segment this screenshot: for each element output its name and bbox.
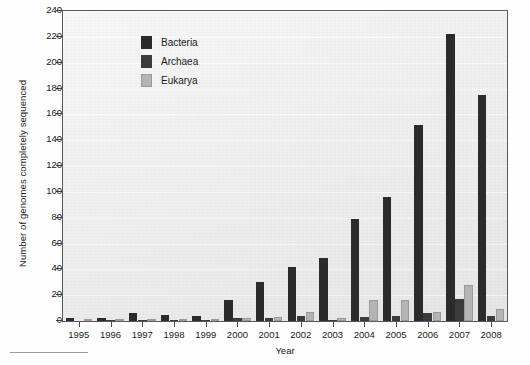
y-axis-tick-label: 180 xyxy=(32,83,62,92)
bar-bacteria-1997 xyxy=(129,313,138,321)
y-axis-tick-label: 100 xyxy=(32,186,62,195)
bar-archaea-1999 xyxy=(201,320,210,322)
x-axis-tick xyxy=(301,322,302,327)
y-axis-tick-label: 140 xyxy=(32,134,62,143)
legend-item: Archaea xyxy=(141,52,198,71)
y-axis: 020406080100120140160180200220240 xyxy=(26,10,62,322)
bar-eukarya-2000 xyxy=(242,318,251,321)
x-axis-tick xyxy=(206,322,207,327)
x-axis-tick xyxy=(491,322,492,327)
x-axis-tick xyxy=(459,322,460,327)
bar-bacteria-2002 xyxy=(288,267,297,321)
legend-swatch-bacteria xyxy=(141,36,152,49)
x-axis-tick xyxy=(428,322,429,327)
bar-eukarya-1998 xyxy=(179,319,188,321)
bar-archaea-2001 xyxy=(265,318,274,321)
bar-bacteria-2000 xyxy=(224,300,233,321)
x-axis-tick xyxy=(79,322,80,327)
footer-rule xyxy=(10,352,88,353)
legend-item: Bacteria xyxy=(141,33,198,52)
y-axis-tick-label: 80 xyxy=(32,212,62,221)
y-axis-tick-label: 120 xyxy=(32,160,62,169)
x-axis-tick xyxy=(174,322,175,327)
bar-group xyxy=(319,11,346,321)
y-axis-tick-label: 0 xyxy=(32,315,62,324)
bar-bacteria-1999 xyxy=(192,316,201,321)
bar-bacteria-2007 xyxy=(446,34,455,321)
bar-archaea-1996 xyxy=(106,320,115,322)
bar-eukarya-2008 xyxy=(496,309,505,321)
bar-eukarya-2002 xyxy=(306,312,315,321)
bar-group xyxy=(383,11,410,321)
x-axis-tick xyxy=(269,322,270,327)
bar-archaea-2004 xyxy=(360,317,369,321)
bar-bacteria-2004 xyxy=(351,219,360,321)
bar-bacteria-2008 xyxy=(478,95,487,321)
bar-eukarya-1996 xyxy=(115,319,124,321)
bar-group xyxy=(256,11,283,321)
bar-eukarya-2005 xyxy=(401,300,410,321)
x-axis-tick xyxy=(364,322,365,327)
bar-bacteria-2003 xyxy=(319,258,328,321)
bar-bacteria-2001 xyxy=(256,282,265,321)
bar-archaea-2008 xyxy=(487,316,496,321)
bar-archaea-2002 xyxy=(297,316,306,321)
x-axis-tick xyxy=(237,322,238,327)
legend-label-eukarya: Eukarya xyxy=(161,75,198,86)
bar-bacteria-2006 xyxy=(414,125,423,321)
x-axis-title: Year xyxy=(62,345,508,356)
bar-eukarya-2004 xyxy=(369,300,378,321)
bar-archaea-1997 xyxy=(138,320,147,322)
bar-eukarya-2001 xyxy=(274,317,283,321)
bar-bacteria-1995 xyxy=(66,318,75,321)
y-axis-tick-label: 200 xyxy=(32,57,62,66)
bar-eukarya-2007 xyxy=(464,285,473,321)
bar-eukarya-1997 xyxy=(147,319,156,321)
y-axis-tick-label: 20 xyxy=(32,289,62,298)
bar-eukarya-2003 xyxy=(337,318,346,321)
legend-label-archaea: Archaea xyxy=(161,56,198,67)
plot-area: Bacteria Archaea Eukarya xyxy=(62,10,508,322)
bar-eukarya-2006 xyxy=(433,312,442,321)
bar-archaea-1998 xyxy=(170,320,179,322)
bar-group xyxy=(414,11,441,321)
legend-item: Eukarya xyxy=(141,71,198,90)
bar-group xyxy=(97,11,124,321)
legend-label-bacteria: Bacteria xyxy=(161,37,198,48)
legend-swatch-eukarya xyxy=(141,74,152,87)
y-axis-tick-label: 240 xyxy=(32,5,62,14)
bar-archaea-2007 xyxy=(455,299,464,321)
bar-eukarya-1999 xyxy=(211,319,220,321)
bar-eukarya-1995 xyxy=(84,319,93,321)
x-axis-tick-label: 2008 xyxy=(469,329,513,340)
bar-bacteria-2005 xyxy=(383,197,392,321)
bar-archaea-2005 xyxy=(392,316,401,321)
bar-bacteria-1998 xyxy=(161,315,170,321)
x-axis-tick xyxy=(142,322,143,327)
legend-swatch-archaea xyxy=(141,55,152,68)
y-axis-tick-label: 220 xyxy=(32,31,62,40)
bar-bacteria-1996 xyxy=(97,318,106,321)
bar-chart-figure: Number of genomes completely sequenced 0… xyxy=(0,0,530,365)
bar-group xyxy=(446,11,473,321)
x-axis-tick xyxy=(111,322,112,327)
legend: Bacteria Archaea Eukarya xyxy=(141,33,198,90)
bar-archaea-2006 xyxy=(423,313,432,321)
x-axis-tick xyxy=(333,322,334,327)
bar-group xyxy=(66,11,93,321)
bar-archaea-2003 xyxy=(328,320,337,322)
bar-group xyxy=(478,11,505,321)
y-axis-tick-label: 160 xyxy=(32,108,62,117)
bar-archaea-2000 xyxy=(233,318,242,321)
bar-group xyxy=(351,11,378,321)
bar-group xyxy=(288,11,315,321)
bar-group xyxy=(224,11,251,321)
y-axis-tick-label: 40 xyxy=(32,263,62,272)
x-axis-tick xyxy=(396,322,397,327)
y-axis-tick-label: 60 xyxy=(32,238,62,247)
